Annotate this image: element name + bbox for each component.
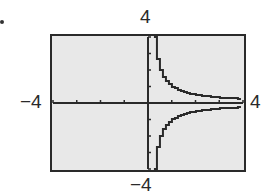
curve-upper-branch	[154, 37, 241, 99]
curve-lower-branch	[154, 107, 241, 169]
graph-plot	[0, 0, 268, 195]
